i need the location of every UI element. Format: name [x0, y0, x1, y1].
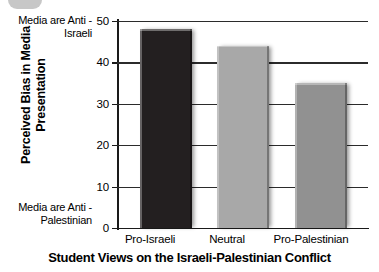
y-tick-mark-50: [112, 21, 117, 22]
chart-figure: 50 40 30 20 10 0: [0, 0, 379, 272]
bar-highlight-top: [295, 83, 347, 85]
y-tick-label-0: 0: [103, 222, 109, 234]
bar-shade-right: [267, 46, 269, 228]
bar-fill-pro-palestinian: [295, 83, 347, 228]
bar-highlight-left: [295, 83, 297, 228]
bar-shade-right: [345, 83, 347, 228]
x-tick-label-pro-palestinian: Pro-Palestinian: [259, 233, 363, 245]
bar-highlight-top: [140, 29, 192, 31]
bar-highlight-left: [140, 29, 142, 228]
y-tick-mark-20: [112, 145, 117, 146]
y-axis-title: Perceived Bias in Media Presentation: [19, 0, 49, 195]
plot-area: 50 40 30 20 10 0: [117, 21, 368, 228]
bar-highlight-top: [217, 46, 269, 48]
y-tick-mark-0: [112, 228, 117, 229]
bar-pro-palestinian[interactable]: [295, 83, 347, 228]
y-tick-label-10: 10: [97, 180, 109, 192]
x-axis-title: Student Views on the Israeli-Palestinian…: [0, 250, 379, 265]
y-axis-anchor-bottom: Media are Anti - Palestinian: [6, 201, 92, 226]
y-tick-label-20: 20: [97, 139, 109, 151]
bar-fill-pro-israeli: [140, 29, 192, 228]
y-tick-mark-40: [112, 62, 117, 63]
x-tick-label-neutral: Neutral: [191, 233, 263, 245]
gridline-0: 0: [117, 228, 368, 229]
y-tick-label-40: 40: [97, 56, 109, 68]
y-tick-label-30: 30: [97, 98, 109, 110]
y-tick-mark-30: [112, 104, 117, 105]
bar-shade-right: [190, 29, 192, 228]
y-axis-anchor-bottom-line-1: Media are Anti -: [6, 201, 92, 214]
bar-fill-neutral: [217, 46, 269, 228]
bar-pro-israeli[interactable]: [140, 29, 192, 228]
y-axis-anchor-bottom-line-2: Palestinian: [6, 214, 92, 227]
y-tick-label-50: 50: [97, 15, 109, 27]
gridline-50: 50: [117, 21, 368, 22]
bar-highlight-left: [217, 46, 219, 228]
bar-neutral[interactable]: [217, 46, 269, 228]
y-axis-title-line-1: Perceived Bias in Media: [19, 0, 34, 195]
y-tick-mark-10: [112, 187, 117, 188]
x-tick-label-pro-israeli: Pro-Israeli: [114, 233, 186, 245]
y-axis-title-line-2: Presentation: [34, 0, 49, 195]
